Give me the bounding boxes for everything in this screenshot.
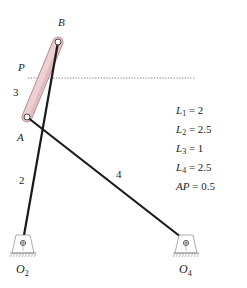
param-l2: L2 = 2.5 <box>176 120 215 139</box>
joint-b <box>55 39 61 45</box>
label-link-2: 2 <box>19 175 25 186</box>
ground-pivot-o4 <box>173 235 199 257</box>
label-point-o2: O2 <box>16 263 29 278</box>
param-ap: AP = 0.5 <box>176 177 215 196</box>
parameter-list: L1 = 2 L2 = 2.5 L3 = 1 L4 = 2.5 AP = 0.5 <box>176 101 215 196</box>
joint-a <box>24 114 30 120</box>
label-point-o4: O4 <box>179 263 192 278</box>
param-l4: L4 = 2.5 <box>176 158 215 177</box>
link-4 <box>27 117 186 241</box>
label-point-p: P <box>18 62 25 73</box>
param-l3: L3 = 1 <box>176 139 215 158</box>
label-point-b: B <box>58 17 65 28</box>
label-link-3: 3 <box>13 87 19 98</box>
param-l1: L1 = 2 <box>176 101 215 120</box>
ground-pivot-o2 <box>10 235 36 257</box>
label-point-a: A <box>17 132 24 143</box>
label-link-4: 4 <box>116 169 122 180</box>
